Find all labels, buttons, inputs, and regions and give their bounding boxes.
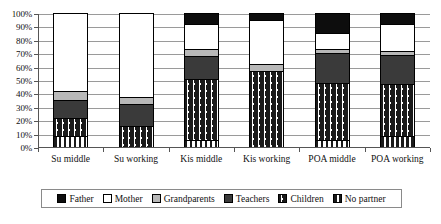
x-axis-label: Su middle: [38, 154, 103, 165]
legend-label: Children: [290, 194, 323, 204]
x-axis-tick: [234, 148, 235, 152]
grandparents-swatch: [152, 194, 161, 203]
x-axis-tick: [38, 148, 39, 152]
legend-label: Mother: [115, 194, 143, 204]
father-swatch: [57, 194, 66, 203]
y-axis-tick-label: 30%: [16, 103, 32, 112]
x-axis-label: POA middle: [299, 154, 364, 165]
x-axis-label: Kis middle: [169, 154, 234, 165]
chart-legend: FatherMotherGrandparentsTeachersChildren…: [41, 189, 402, 208]
stacked-bar-chart: 0%10%20%30%40%50%60%70%80%90%100% Su mid…: [0, 0, 441, 224]
y-axis-tick-label: 80%: [16, 36, 32, 45]
x-axis-tick: [169, 148, 170, 152]
x-axis-label: POA working: [365, 154, 430, 165]
plot-area: [38, 14, 430, 148]
y-axis-tick-label: 40%: [16, 90, 32, 99]
x-axis-tick: [365, 148, 366, 152]
x-axis-labels: Su middleSu workingKis middleKis working…: [38, 154, 430, 186]
legend-item: Children: [278, 194, 323, 204]
x-axis-tick: [103, 148, 104, 152]
no-partner-swatch: [333, 194, 342, 203]
legend-item: Teachers: [224, 194, 270, 204]
legend-label: Father: [69, 194, 93, 204]
y-axis-tick-label: 20%: [16, 117, 32, 126]
children-swatch: [278, 194, 287, 203]
y-axis-tick-label: 10%: [16, 130, 32, 139]
legend-label: Grandparents: [164, 194, 215, 204]
x-axis-tick: [299, 148, 300, 152]
legend-label: Teachers: [236, 194, 270, 204]
x-axis-label: Su working: [103, 154, 168, 165]
x-axis-tick: [430, 148, 431, 152]
y-axis-tick-label: 60%: [16, 63, 32, 72]
x-axis-ticks: [38, 148, 430, 153]
y-axis-tick-label: 0%: [20, 144, 32, 153]
mother-swatch: [103, 194, 112, 203]
y-axis-tick-label: 50%: [16, 77, 32, 86]
teachers-swatch: [224, 194, 233, 203]
y-axis-tick-label: 100%: [12, 10, 32, 19]
legend-item: Father: [57, 194, 93, 204]
y-axis-tick-label: 70%: [16, 50, 32, 59]
legend-item: Grandparents: [152, 194, 215, 204]
y-axis-labels: 0%10%20%30%40%50%60%70%80%90%100%: [0, 14, 36, 148]
axis-frame: [38, 14, 430, 148]
legend-label: No partner: [345, 194, 386, 204]
legend-item: No partner: [333, 194, 386, 204]
x-axis-label: Kis working: [234, 154, 299, 165]
legend-item: Mother: [103, 194, 143, 204]
y-axis-tick-label: 90%: [16, 23, 32, 32]
